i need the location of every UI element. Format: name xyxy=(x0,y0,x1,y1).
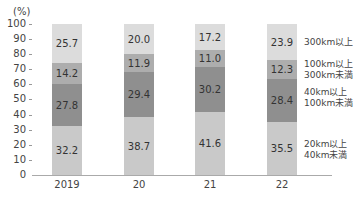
y-tick-mark xyxy=(29,99,32,100)
y-tick-mark xyxy=(29,160,32,161)
bar-2019: 25.7 14.2 27.8 32.2 xyxy=(52,24,82,175)
segment-100-300km: 11.0 xyxy=(195,50,225,67)
segment-100-300km: 11.9 xyxy=(124,54,154,72)
segment-40-100km: 29.4 xyxy=(124,72,154,117)
y-tick-100: 100 xyxy=(0,19,26,29)
x-label-21: 21 xyxy=(190,179,230,190)
segment-40-100km: 30.2 xyxy=(195,67,225,112)
segment-100-300km: 12.3 xyxy=(267,60,297,79)
segment-300km-plus: 23.9 xyxy=(267,24,297,60)
segment-20-40km: 35.5 xyxy=(267,122,297,175)
bar-2020: 20.0 11.9 29.4 38.7 xyxy=(124,24,154,175)
segment-40-100km: 28.4 xyxy=(267,79,297,122)
legend-100-300km: 100km以上 300km未満 xyxy=(304,59,353,81)
cropped-footnote xyxy=(0,195,351,199)
y-tick-mark xyxy=(29,115,32,116)
y-tick-40: 40 xyxy=(0,110,26,120)
x-label-22: 22 xyxy=(262,179,302,190)
y-tick-30: 30 xyxy=(0,125,26,135)
segment-100-300km: 14.2 xyxy=(52,63,82,84)
legend-label: 40km以上 xyxy=(304,87,353,98)
legend-label: 300km以上 xyxy=(304,37,353,48)
y-tick-mark xyxy=(29,84,32,85)
legend-label: 100km以上 xyxy=(304,59,353,70)
y-tick-50: 50 xyxy=(0,94,26,104)
y-tick-mark xyxy=(29,24,32,25)
legend-label: 100km未満 xyxy=(304,98,353,109)
segment-300km-plus: 25.7 xyxy=(52,24,82,63)
y-tick-60: 60 xyxy=(0,79,26,89)
legend-20-40km: 20km以上 40km未満 xyxy=(304,139,347,161)
y-tick-mark xyxy=(29,130,32,131)
legend-label: 40km未満 xyxy=(304,150,347,161)
y-tick-80: 80 xyxy=(0,49,26,59)
legend-label: 300km未満 xyxy=(304,70,353,81)
segment-300km-plus: 20.0 xyxy=(124,24,154,54)
y-tick-0: 0 xyxy=(0,170,26,180)
y-tick-90: 90 xyxy=(0,34,26,44)
segment-20-40km: 38.7 xyxy=(124,117,154,175)
cropped-title xyxy=(0,0,351,3)
bar-2021: 17.2 11.0 30.2 41.6 xyxy=(195,24,225,175)
y-tick-mark xyxy=(29,54,32,55)
y-tick-mark xyxy=(29,69,32,70)
y-tick-10: 10 xyxy=(0,155,26,165)
x-axis-line xyxy=(32,175,332,176)
bar-2022: 23.9 12.3 28.4 35.5 xyxy=(267,24,297,175)
x-label-20: 20 xyxy=(119,179,159,190)
y-axis-unit: (%) xyxy=(13,6,30,17)
segment-20-40km: 32.2 xyxy=(52,126,82,175)
legend-40-100km: 40km以上 100km未満 xyxy=(304,87,353,109)
y-tick-20: 20 xyxy=(0,140,26,150)
y-tick-mark xyxy=(29,145,32,146)
segment-300km-plus: 17.2 xyxy=(195,24,225,50)
y-tick-mark xyxy=(29,39,32,40)
x-label-2019: 2019 xyxy=(47,179,87,190)
segment-40-100km: 27.8 xyxy=(52,84,82,126)
legend-label: 20km以上 xyxy=(304,139,347,150)
y-tick-70: 70 xyxy=(0,64,26,74)
segment-20-40km: 41.6 xyxy=(195,112,225,175)
legend-300km-plus: 300km以上 xyxy=(304,37,353,48)
